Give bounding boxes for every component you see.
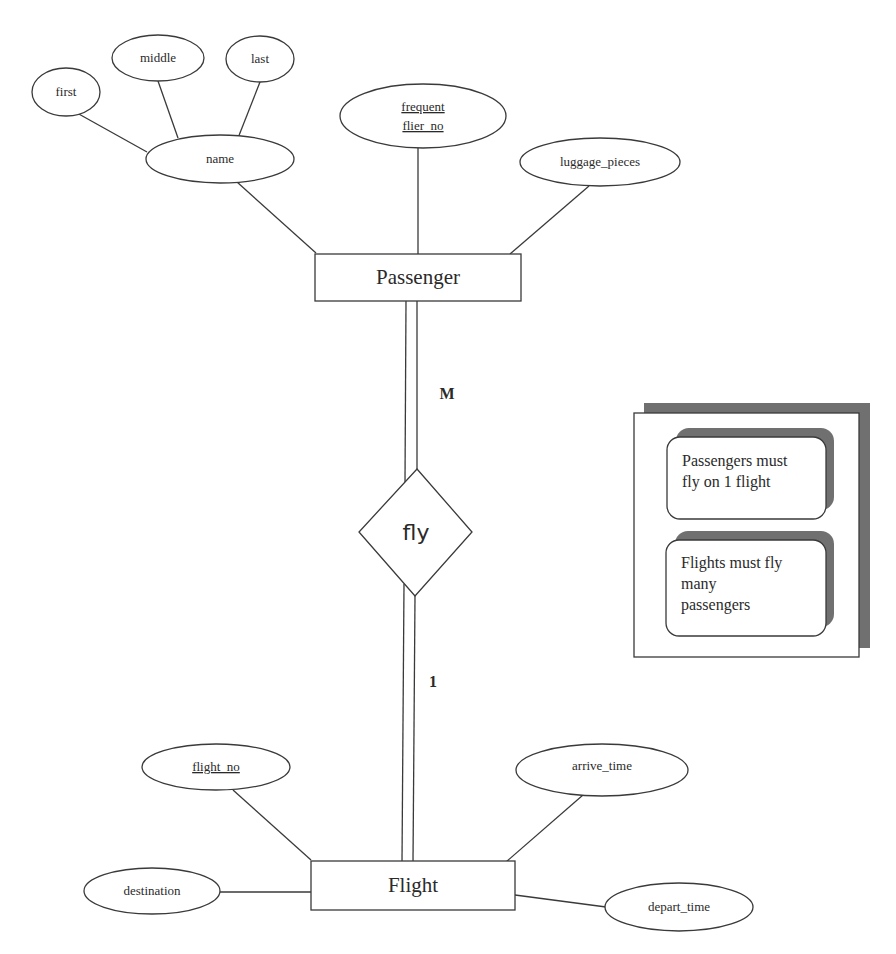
line-first-name	[77, 113, 147, 152]
attribute-middle-label: middle	[140, 50, 176, 65]
attribute-last: last	[226, 36, 294, 82]
attribute-middle: middle	[112, 35, 204, 81]
double-line-passenger-fly-a	[405, 301, 406, 482]
attribute-flightno-label: flight_no	[192, 759, 240, 774]
line-depart-flight	[515, 895, 606, 907]
line-flightno-flight	[233, 790, 311, 860]
note-card-passengers: Passengers must fly on 1 flight	[667, 428, 834, 519]
note-1-line-1: Passengers must	[682, 452, 788, 470]
attribute-last-label: last	[251, 51, 269, 66]
attribute-flight-no: flight_no	[142, 744, 290, 790]
attribute-ffno-label-line2: flier_no	[402, 118, 443, 133]
attribute-frequent-flier-no: frequent flier_no	[340, 84, 506, 148]
entity-passenger: Passenger	[315, 254, 521, 301]
entity-passenger-label: Passenger	[376, 265, 460, 289]
attribute-arrive-label: arrive_time	[572, 758, 632, 773]
note-2-line-2: many	[681, 575, 717, 593]
double-line-fly-flight-a	[402, 584, 404, 862]
cardinality-1: 1	[429, 673, 437, 690]
line-arrive-flight	[506, 795, 583, 862]
attribute-destination: destination	[84, 868, 220, 914]
attribute-arrive-time: arrive_time	[516, 744, 688, 796]
attribute-name-label: name	[206, 151, 234, 166]
line-last-name	[238, 82, 260, 138]
line-luggage-passenger	[510, 186, 589, 254]
relationship-fly-label: fly	[403, 520, 430, 545]
attribute-first-label: first	[56, 84, 77, 99]
attribute-depart-time: depart_time	[605, 883, 753, 931]
double-line-fly-flight-b	[413, 596, 415, 862]
notes-panel: Passengers must fly on 1 flight Flights …	[634, 403, 870, 657]
note-1-line-2: fly on 1 flight	[682, 473, 771, 491]
note-card-flights: Flights must fly many passengers	[666, 531, 834, 636]
attribute-luggage-pieces: luggage_pieces	[520, 138, 680, 186]
entity-flight-label: Flight	[388, 873, 438, 897]
attribute-depart-label: depart_time	[648, 899, 710, 914]
entity-flight: Flight	[311, 861, 515, 910]
line-middle-name	[158, 81, 178, 138]
attribute-ffno-label-line1: frequent	[401, 99, 445, 114]
relationship-fly: fly	[359, 469, 472, 596]
attribute-name: name	[146, 135, 294, 183]
er-diagram: first middle last name frequent flier_no…	[0, 0, 896, 954]
note-2-line-1: Flights must fly	[681, 554, 782, 572]
attribute-destination-label: destination	[123, 883, 181, 898]
attribute-first: first	[32, 68, 100, 116]
cardinality-m: M	[439, 385, 454, 402]
line-name-passenger	[237, 182, 316, 253]
attribute-luggage-label: luggage_pieces	[560, 154, 640, 169]
note-2-line-3: passengers	[681, 596, 750, 614]
